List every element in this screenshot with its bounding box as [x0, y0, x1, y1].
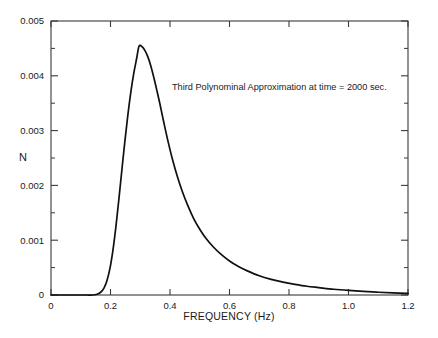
x-tick-label: 0.2 [104, 300, 117, 311]
y-tick-label: 0.001 [20, 235, 44, 246]
frequency-spectrum-chart: 00.20.40.60.81.01.2 00.0010.0020.0030.00… [0, 0, 438, 338]
y-tick-label: 0 [39, 289, 44, 300]
y-axis-ticks [51, 21, 408, 295]
y-tick-label: 0.004 [20, 70, 44, 81]
x-tick-label: 1.2 [401, 300, 414, 311]
y-tick-label: 0.005 [20, 15, 44, 26]
x-axis-ticks [51, 21, 408, 295]
y-tick-label: 0.003 [20, 125, 44, 136]
plot-frame [51, 21, 408, 295]
chart-annotation: Third Polynominal Approximation at time … [172, 82, 387, 92]
x-tick-label: 0.8 [282, 300, 295, 311]
x-axis-title: FREQUENCY (Hz) [183, 310, 274, 322]
chart-figure: 00.20.40.60.81.01.2 00.0010.0020.0030.00… [0, 0, 438, 338]
x-tick-label: 0 [48, 300, 53, 311]
x-tick-label: 1.0 [342, 300, 355, 311]
y-axis-title: N [19, 151, 27, 163]
x-tick-label: 0.4 [163, 300, 176, 311]
y-tick-label: 0.002 [20, 180, 44, 191]
